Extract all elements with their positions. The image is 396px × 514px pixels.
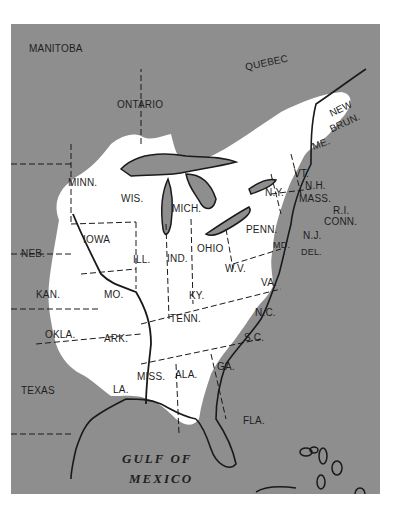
label-sc: S.C. [244,333,264,343]
label-mass: MASS. [299,194,331,204]
label-neb: NEB. [21,249,45,259]
label-fla: FLA. [243,416,265,426]
label-va: VA. [261,278,277,288]
label-nj: N.J. [303,231,322,241]
label-conn: CONN. [324,217,357,227]
label-nc: N.C. [255,308,276,318]
label-iowa: IOWA [83,235,110,245]
label-penn: PENN. [246,225,278,235]
label-la: LA. [113,385,129,395]
label-gulf-of-mexico-2: MEXICO [129,472,193,485]
bahamas-islands [300,447,365,494]
label-ny: N.Y. [265,188,284,198]
label-manitoba: MANITOBA [29,44,83,54]
label-del: DEL. [301,248,322,257]
label-ri: R.I. [333,206,349,216]
label-gulf-of-mexico-1: GULF OF [122,452,192,465]
label-ohio: OHIO [197,244,223,254]
label-wv: W.V. [225,264,246,274]
label-vt: VT. [294,169,309,179]
label-ill: ILL. [133,255,150,265]
label-ala: ALA. [175,370,197,380]
cuba-coast [256,487,296,492]
label-ga: GA. [217,362,235,372]
label-wis: WIS. [121,194,143,204]
label-kan: KAN. [36,290,60,300]
map-frame: MANITOBA ONTARIO QUEBEC NEW BRUN. ME. VT… [11,24,380,494]
label-md: MD. [273,241,290,250]
label-texas: TEXAS [21,386,55,396]
label-mo: MO. [104,290,124,300]
label-okla: OKLA. [45,330,75,340]
map-graphic [11,24,380,494]
label-ark: ARK. [104,334,128,344]
label-miss: MISS. [137,372,165,382]
label-ontario: ONTARIO [117,100,163,110]
label-minn: MINN. [68,178,97,188]
label-nh: N.H. [305,181,326,191]
label-mich: MICH. [172,204,201,214]
label-ind: IND. [167,254,188,264]
label-ky: KY. [189,291,204,301]
label-tenn: TENN. [170,314,201,324]
